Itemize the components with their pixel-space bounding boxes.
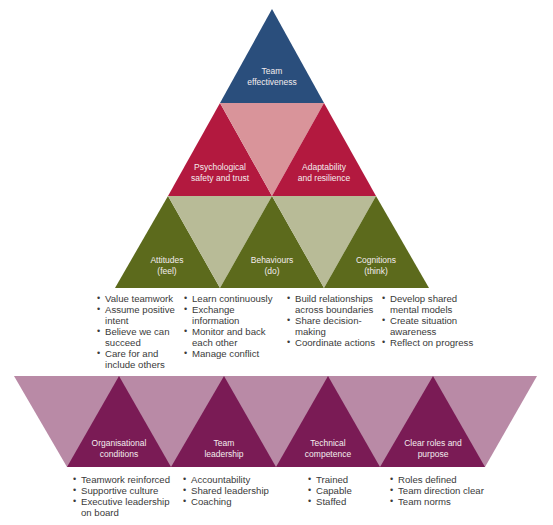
technical-competence-label: Technical competence — [273, 438, 383, 460]
list-item: Coordinate actions — [287, 337, 383, 348]
label-line: Psychological — [165, 162, 275, 173]
list-item: Accountability — [183, 474, 283, 485]
list-item: Learn continuously — [184, 293, 284, 304]
list-item: Monitor and back each other — [184, 326, 284, 348]
list-item: Believe we can succeed — [97, 326, 183, 348]
cognitions-list: Develop shared mental models Create situ… — [382, 293, 478, 348]
technical-competence-list: Trained Capable Staffed — [308, 474, 378, 507]
list-item: Exchange information — [184, 304, 284, 326]
list-item: Executive leadership on board — [73, 496, 179, 518]
label-line: Team — [217, 66, 327, 77]
list-item: Build relationships across boundaries — [287, 293, 383, 315]
list-item: Create situation awareness — [382, 315, 478, 337]
list-item: Capable — [308, 485, 378, 496]
label-line: (feel) — [112, 266, 222, 277]
label-line: (do) — [217, 266, 327, 277]
label-line: Cognitions — [321, 255, 431, 266]
list-item: Manage conflict — [184, 348, 284, 359]
list-item: Roles defined — [390, 474, 500, 485]
list-item: Develop shared mental models — [382, 293, 478, 315]
organisational-conditions-label: Organisational conditions — [64, 438, 174, 460]
list-item: Supportive culture — [73, 485, 179, 496]
label-line: purpose — [378, 449, 488, 460]
list-item: Teamwork reinforced — [73, 474, 179, 485]
label-line: (think) — [321, 266, 431, 277]
list-item: Staffed — [308, 496, 378, 507]
label-line: Team — [169, 438, 279, 449]
label-line: effectiveness — [217, 77, 327, 88]
attitudes-list: Value teamwork Assume positive intent Be… — [97, 293, 183, 370]
list-item: Coaching — [183, 496, 283, 507]
attitudes-label: Attitudes (feel) — [112, 255, 222, 277]
list-item: Reflect on progress — [382, 337, 478, 348]
list-item: Value teamwork — [97, 293, 183, 304]
list-item: Assume positive intent — [97, 304, 183, 326]
team-leadership-list: Accountability Shared leadership Coachin… — [183, 474, 283, 507]
behaviours-list-2: Build relationships across boundaries Sh… — [287, 293, 383, 348]
label-line: competence — [273, 449, 383, 460]
label-line: Attitudes — [112, 255, 222, 266]
list-item: Shared leadership — [183, 485, 283, 496]
label-line: safety and trust — [165, 173, 275, 184]
clear-roles-list: Roles defined Team direction clear Team … — [390, 474, 500, 507]
adaptability-label: Adaptability and resilience — [269, 162, 379, 184]
label-line: Adaptability — [269, 162, 379, 173]
behaviours-list: Learn continuously Exchange information … — [184, 293, 284, 359]
organisational-conditions-list: Teamwork reinforced Supportive culture E… — [73, 474, 179, 518]
clear-roles-label: Clear roles and purpose — [378, 438, 488, 460]
team-leadership-label: Team leadership — [169, 438, 279, 460]
label-line: Technical — [273, 438, 383, 449]
label-line: and resilience — [269, 173, 379, 184]
label-line: leadership — [169, 449, 279, 460]
label-line: conditions — [64, 449, 174, 460]
psychological-safety-label: Psychological safety and trust — [165, 162, 275, 184]
list-item: Trained — [308, 474, 378, 485]
list-item: Team norms — [390, 496, 500, 507]
cognitions-label: Cognitions (think) — [321, 255, 431, 277]
list-item: Care for and include others — [97, 348, 183, 370]
list-item: Share decision-making — [287, 315, 383, 337]
label-line: Clear roles and — [378, 438, 488, 449]
label-line: Behaviours — [217, 255, 327, 266]
team-effectiveness-label: Team effectiveness — [217, 66, 327, 88]
list-item: Team direction clear — [390, 485, 500, 496]
team-effectiveness-triangle — [220, 9, 324, 103]
label-line: Organisational — [64, 438, 174, 449]
behaviours-label: Behaviours (do) — [217, 255, 327, 277]
